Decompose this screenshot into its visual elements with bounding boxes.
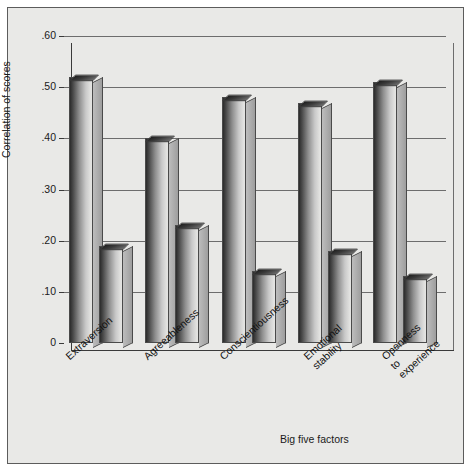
- bar-front-face: [222, 97, 246, 343]
- bar: [69, 77, 93, 343]
- y-axis-tick-label: .30: [24, 183, 56, 195]
- chart-frame: .60.50.40.30.20.100 ExtraversionAgreeabl…: [7, 7, 464, 464]
- y-axis-tick: [59, 292, 64, 293]
- bar-side-face: [199, 225, 209, 348]
- y-axis-tick: [59, 190, 64, 191]
- y-axis-tick: [59, 241, 64, 242]
- y-axis-tick: [59, 343, 64, 344]
- y-axis-tick-label: .60: [24, 29, 56, 41]
- y-axis-tick: [59, 87, 64, 88]
- y-axis-tick-label: .40: [24, 131, 56, 143]
- chart-figure: .60.50.40.30.20.100 ExtraversionAgreeabl…: [0, 0, 473, 474]
- bar-front-face: [373, 82, 397, 343]
- y-axis-title: Correlation of scores: [0, 61, 12, 158]
- bar: [222, 97, 246, 343]
- y-axis-tick-label: 0: [24, 336, 56, 348]
- bar: [298, 103, 322, 343]
- y-axis-tick-label: .20: [24, 234, 56, 246]
- gridline: [64, 36, 446, 37]
- x-axis-title: Big five factors: [280, 433, 349, 445]
- bar-front-face: [145, 138, 169, 343]
- bar: [373, 82, 397, 343]
- y-axis-tick-label: .50: [24, 80, 56, 92]
- y-axis-tick: [59, 138, 64, 139]
- y-axis-tick-label: .10: [24, 285, 56, 297]
- y-axis-tick: [59, 36, 64, 37]
- bar-front-face: [69, 77, 93, 343]
- plot-right-border: [453, 43, 454, 351]
- bar-side-face: [123, 246, 133, 348]
- bar: [145, 138, 169, 343]
- bar-side-face: [352, 251, 362, 348]
- bar-front-face: [298, 103, 322, 343]
